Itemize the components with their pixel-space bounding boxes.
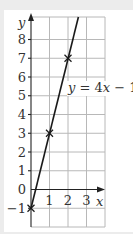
y-axis-label: y bbox=[17, 15, 26, 30]
series-line bbox=[31, 17, 78, 208]
x-tick-label: 3 bbox=[82, 193, 90, 208]
y-tick-label: 1 bbox=[18, 163, 26, 178]
equation-label: y = 4x − 1 bbox=[67, 80, 133, 95]
y-tick-label: 2 bbox=[18, 145, 26, 160]
origin-label: 0 bbox=[18, 182, 26, 197]
y-tick-label: 4 bbox=[18, 107, 26, 122]
y-tick-label: 7 bbox=[18, 51, 26, 66]
y-tick-label: 8 bbox=[18, 32, 26, 47]
x-tick-labels: 1 2 3 bbox=[45, 193, 90, 208]
x-tick-label: 2 bbox=[64, 193, 72, 208]
y-tick-label: 5 bbox=[18, 88, 26, 103]
x-tick-label: 1 bbox=[45, 193, 53, 208]
y-tick-label: 3 bbox=[18, 126, 26, 141]
x-axis-arrow-icon bbox=[97, 187, 105, 193]
y-tick-label: −1 bbox=[7, 201, 26, 216]
y-tick-labels: 8 7 6 5 4 3 2 1 0 −1 bbox=[7, 32, 26, 216]
line-chart: y x 8 7 6 5 4 3 2 1 0 −1 1 2 3 y = 4x − … bbox=[0, 0, 133, 234]
y-tick-label: 6 bbox=[18, 70, 26, 85]
x-axis-label: x bbox=[96, 194, 104, 209]
